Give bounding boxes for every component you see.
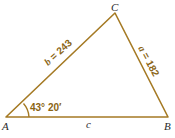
- vertex-a-label: A: [1, 120, 9, 132]
- vertex-c-label: C: [111, 1, 119, 13]
- angle-a-label: 43° 20′: [30, 102, 62, 113]
- side-c-label: c: [86, 118, 91, 130]
- triangle-diagram: A B C c 43° 20′ b = 243 a = 182: [0, 0, 175, 138]
- angle-a-arc: [24, 104, 30, 118]
- svg-text:b = 243: b = 243: [42, 37, 74, 68]
- side-b-label: b = 243: [42, 37, 74, 68]
- vertex-b-label: B: [164, 120, 171, 132]
